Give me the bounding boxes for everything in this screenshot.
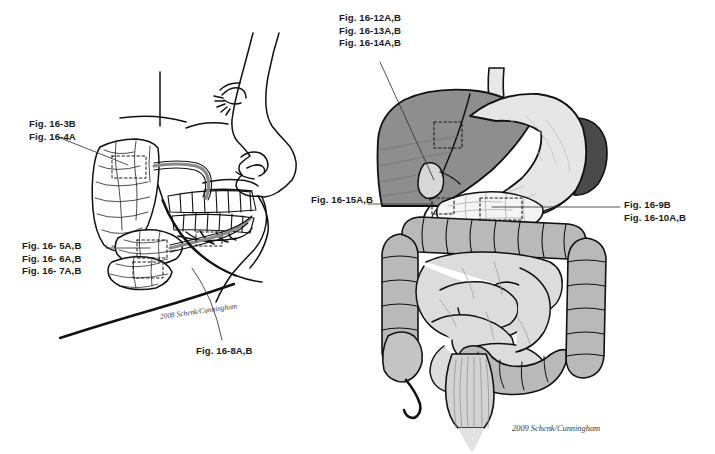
cheek-line xyxy=(120,116,186,122)
descending-colon xyxy=(566,238,606,378)
submandibular-sublingual-callout: Fig. 16- 5A,B Fig. 16- 6A,B Fig. 16- 7A,… xyxy=(22,240,81,278)
eyebrow xyxy=(186,123,228,128)
eye-upper-lid xyxy=(222,88,246,98)
gallbladder-callout: Fig. 16-15A,B xyxy=(311,194,373,207)
callout-line: Fig. 16-13A,B xyxy=(339,25,401,38)
gallbladder xyxy=(418,163,444,199)
chin-neck-contour xyxy=(216,197,267,302)
cecum xyxy=(383,332,423,382)
eye-lashes xyxy=(214,96,230,115)
callout-line: Fig. 16- 5A,B xyxy=(22,240,81,253)
callout-line: Fig. 16-8A,B xyxy=(196,345,253,358)
eye-lower-lid xyxy=(224,100,241,104)
appendix xyxy=(404,380,420,418)
callout-line: Fig. 16- 7A,B xyxy=(22,265,81,278)
callout-line: Fig. 16- 6A,B xyxy=(22,253,81,266)
plate-artwork xyxy=(0,0,715,454)
callout-line: Fig. 16-9B xyxy=(624,199,686,212)
callout-line: Fig. 16-12A,B xyxy=(339,12,401,25)
nostril xyxy=(247,165,265,173)
lateral-head-figure xyxy=(58,33,296,340)
callout-line: Fig. 16-10A,B xyxy=(624,212,686,225)
esophagus-callout: Fig. 16-8A,B xyxy=(196,345,253,358)
sublingual-gland xyxy=(108,256,172,290)
callout-line: Fig. 16-15A,B xyxy=(311,194,373,207)
pancreas-intestine-callout: Fig. 16-9B Fig. 16-10A,B xyxy=(624,199,686,224)
rectum-taper xyxy=(458,428,484,452)
callout-line: Fig. 16-14A,B xyxy=(339,37,401,50)
callout-line: Fig. 16-3B xyxy=(29,118,76,131)
copyright-right: 2009 Schenk/Cunningham xyxy=(512,424,600,433)
callout-line: Fig. 16-4A xyxy=(29,131,76,144)
abdominal-viscera-figure xyxy=(368,62,620,452)
figure-plate: Fig. 16-3B Fig. 16-4A Fig. 16- 5A,B Fig.… xyxy=(0,0,715,454)
parotid-duct-outline xyxy=(154,161,212,200)
stomach-liver-callout: Fig. 16-12A,B Fig. 16-13A,B Fig. 16-14A,… xyxy=(339,12,401,50)
parotid-gland-callout: Fig. 16-3B Fig. 16-4A xyxy=(29,118,76,143)
